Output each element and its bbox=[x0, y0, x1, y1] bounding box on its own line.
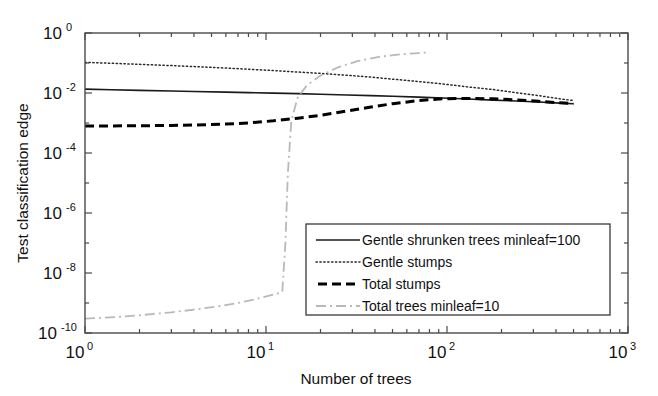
svg-text:10: 10 bbox=[43, 264, 62, 283]
legend-label: Total trees minleaf=10 bbox=[362, 298, 500, 314]
x-axis-title: Number of trees bbox=[300, 370, 411, 387]
svg-text:0: 0 bbox=[66, 21, 72, 33]
svg-text:-8: -8 bbox=[66, 261, 76, 273]
svg-text:10: 10 bbox=[428, 343, 447, 362]
svg-text:0: 0 bbox=[87, 340, 93, 352]
y-axis-title: Test classification edge bbox=[14, 103, 31, 262]
x-tick-label: 101 bbox=[247, 340, 275, 362]
legend: Gentle shrunken trees minleaf=100 Gentle… bbox=[306, 224, 610, 315]
svg-text:10: 10 bbox=[43, 144, 62, 163]
svg-text:-10: -10 bbox=[61, 321, 77, 333]
legend-label: Total stumps bbox=[362, 276, 441, 292]
x-tick-label: 100 bbox=[66, 340, 94, 362]
svg-text:10: 10 bbox=[43, 84, 62, 103]
svg-text:2: 2 bbox=[449, 340, 455, 352]
figure-container: 100101102103 10010-210-410-610-810-10 Nu… bbox=[0, 0, 658, 396]
legend-label: Gentle stumps bbox=[362, 254, 452, 270]
legend-label: Gentle shrunken trees minleaf=100 bbox=[362, 232, 581, 248]
x-tick-label: 103 bbox=[609, 340, 637, 362]
svg-text:10: 10 bbox=[38, 324, 57, 343]
svg-text:10: 10 bbox=[609, 343, 628, 362]
y-tick-label: 10-6 bbox=[43, 201, 76, 223]
svg-text:10: 10 bbox=[66, 343, 85, 362]
chart-canvas: 100101102103 10010-210-410-610-810-10 Nu… bbox=[0, 0, 658, 396]
svg-text:1: 1 bbox=[268, 340, 274, 352]
svg-text:-4: -4 bbox=[66, 141, 76, 153]
y-tick-label: 10-8 bbox=[43, 261, 76, 283]
y-tick-label: 10-2 bbox=[43, 81, 76, 103]
svg-text:-6: -6 bbox=[66, 201, 76, 213]
x-axis-tick-labels: 100101102103 bbox=[66, 340, 637, 362]
svg-text:10: 10 bbox=[43, 24, 62, 43]
y-tick-label: 10-10 bbox=[38, 321, 77, 343]
svg-text:3: 3 bbox=[630, 340, 636, 352]
svg-text:10: 10 bbox=[43, 204, 62, 223]
svg-text:10: 10 bbox=[247, 343, 266, 362]
svg-text:-2: -2 bbox=[66, 81, 76, 93]
y-tick-label: 100 bbox=[43, 21, 72, 43]
y-axis-tick-labels: 10010-210-410-610-810-10 bbox=[38, 21, 77, 343]
y-tick-label: 10-4 bbox=[43, 141, 76, 163]
x-tick-label: 102 bbox=[428, 340, 456, 362]
